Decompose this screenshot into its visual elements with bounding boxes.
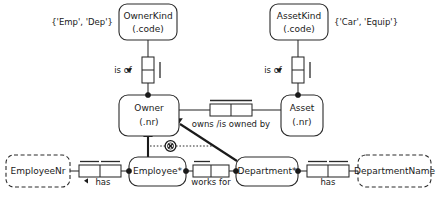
value-type-employeenr-name: EmployeeNr <box>10 166 65 176</box>
mandatory-dot-department-works-for <box>233 168 238 173</box>
entity-department-name: Department* <box>238 166 297 176</box>
entity-employee-name: Employee* <box>133 166 183 176</box>
mandatory-dot-employee-has-nr <box>126 168 131 173</box>
predicate-direction-arrow-employee-has <box>84 178 88 183</box>
mandatory-dot-asset-kind <box>295 92 300 97</box>
orm-diagram-svg: OwnerKind (.code) {'Emp', 'Dep'} AssetKi… <box>0 0 437 202</box>
entity-ownerkind[interactable] <box>119 4 177 40</box>
entity-owner[interactable] <box>119 95 179 136</box>
entity-ownerkind-name: OwnerKind <box>123 11 172 21</box>
entity-ownerkind-refmode: (.code) <box>132 24 164 34</box>
value-constraint-assetkind: {'Car', 'Equip'} <box>334 17 398 27</box>
value-type-departmentname-name: DepartmentName <box>354 166 435 176</box>
subtype-link-department-owner <box>180 124 237 161</box>
entity-asset-name: Asset <box>290 103 315 113</box>
predicate-label-works-for: works for <box>191 177 231 187</box>
entity-assetkind-refmode: (.code) <box>283 24 315 34</box>
mandatory-dot-employee-works-for <box>183 168 188 173</box>
entity-owner-name: Owner <box>134 103 164 113</box>
entity-assetkind[interactable] <box>270 4 328 40</box>
entity-asset-refmode: (.nr) <box>292 117 311 127</box>
predicate-label-employee-has: has <box>95 177 111 187</box>
value-constraint-ownerkind: {'Emp', 'Dep'} <box>51 17 113 27</box>
mandatory-dot-owner-kind <box>145 92 150 97</box>
entity-asset[interactable] <box>281 95 323 136</box>
mandatory-dot-department-has-name <box>295 168 300 173</box>
predicate-label-department-has: has <box>320 177 336 187</box>
entity-assetkind-name: AssetKind <box>277 11 321 21</box>
entity-owner-refmode: (.nr) <box>139 117 158 127</box>
predicate-label-owns: owns /is owned by <box>192 119 270 129</box>
orm-diagram-canvas: OwnerKind (.code) {'Emp', 'Dep'} AssetKi… <box>0 0 437 202</box>
